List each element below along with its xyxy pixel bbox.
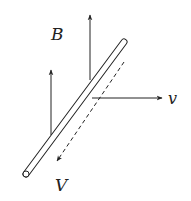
rod <box>23 42 124 177</box>
voltage-label: V <box>55 175 69 195</box>
diagram-canvas: B v V <box>0 0 191 201</box>
rod-end-cap <box>23 171 29 177</box>
velocity-label: v <box>168 89 177 108</box>
magnetic-field-label: B <box>50 24 64 44</box>
